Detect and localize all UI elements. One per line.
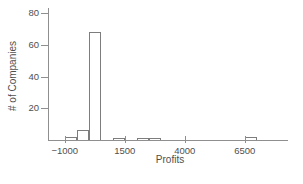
y-tick-label: 60 [17, 40, 39, 50]
y-tick-label: 20 [17, 104, 39, 114]
profits-histogram-figure: 20406080 −1000150040006500 # of Companie… [0, 0, 303, 184]
x-tick-mark [125, 136, 126, 143]
histogram-bar [137, 138, 149, 140]
x-axis-label: Profits [156, 155, 184, 165]
histogram-bar [77, 130, 89, 140]
histogram-bar [113, 138, 125, 140]
x-tick-label: 1500 [114, 146, 135, 156]
x-tick-label: −1000 [51, 146, 78, 156]
histogram-bar [89, 32, 101, 140]
y-axis-line [48, 8, 49, 141]
histogram-bar [65, 137, 77, 140]
y-tick-mark [41, 77, 48, 78]
y-axis-label: # of Companies [8, 41, 18, 111]
x-axis-line [48, 140, 288, 141]
y-tick-label: 80 [17, 8, 39, 18]
x-tick-label: 6500 [234, 146, 255, 156]
y-tick-mark [41, 13, 48, 14]
y-tick-label: 40 [17, 72, 39, 82]
x-tick-mark [65, 136, 66, 143]
y-tick-mark [41, 45, 48, 46]
histogram-bar [149, 138, 161, 140]
x-tick-mark [185, 136, 186, 143]
x-tick-mark [245, 136, 246, 143]
y-tick-mark [41, 108, 48, 109]
histogram-bar [245, 137, 257, 140]
